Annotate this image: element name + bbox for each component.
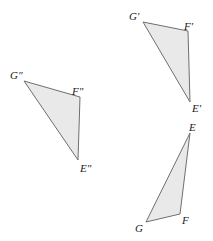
triangle-efg-prime-shape [143,22,190,102]
vertex-label-e-double-prime: E" [80,163,91,174]
triangle-efg-shape [146,133,190,222]
figure-canvas [0,0,213,241]
vertex-label-f-double-prime: F" [72,86,83,97]
vertex-label-f-prime: F' [184,21,193,32]
vertex-label-g: G [135,223,143,234]
vertex-label-e: E [189,122,196,133]
vertex-label-g-double-prime: G" [10,70,23,81]
vertex-label-g-prime: G' [129,11,139,22]
vertex-label-f: F [182,215,189,226]
vertex-label-e-prime: E' [192,103,201,114]
